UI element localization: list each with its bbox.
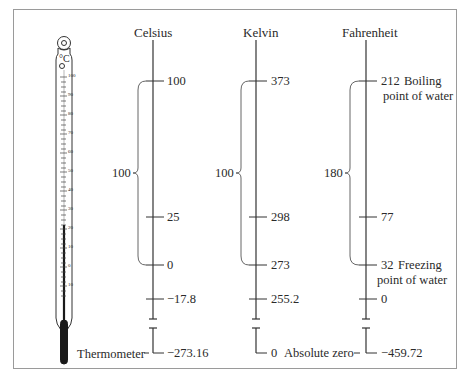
boiling-label-line2: point of water xyxy=(383,89,453,103)
thermometer-mark: 10 xyxy=(68,244,73,250)
thermometer-mark: 40 xyxy=(68,187,73,193)
celsius-body-value: 25 xyxy=(167,210,180,224)
fahrenheit-f-zero-value: 0 xyxy=(381,292,387,306)
thermometer-scale-ticks xyxy=(60,77,67,296)
kelvin-header: Kelvin xyxy=(243,26,278,40)
fahrenheit-absolute-zero-value: −459.72 xyxy=(381,346,422,360)
kelvin-boiling-value: 373 xyxy=(271,74,290,88)
thermometer-mark: 10 xyxy=(68,282,73,288)
absolute-zero-label: Absolute zero xyxy=(284,346,354,360)
fahrenheit-interval-label: 180 xyxy=(324,166,343,180)
celsius-freezing-value: 0 xyxy=(167,258,173,272)
thermometer-mark: 0 xyxy=(68,263,71,269)
fahrenheit-header: Fahrenheit xyxy=(342,26,398,40)
thermometer-mark: 100 xyxy=(68,73,76,79)
fahrenheit-boiling-value: 212 xyxy=(381,74,400,88)
celsius-boiling-value: 100 xyxy=(167,74,186,88)
thermometer-caption: Thermometer xyxy=(77,347,145,361)
fahrenheit-body-value: 77 xyxy=(381,210,394,224)
thermometer-mark: 80 xyxy=(68,111,73,117)
kelvin-freezing-value: 273 xyxy=(271,258,290,272)
kelvin-absolute-zero-value: 0 xyxy=(271,346,277,360)
thermometer-mark: 90 xyxy=(68,92,73,98)
freezing-label-line2: point of water xyxy=(377,273,447,287)
celsius-header: Celsius xyxy=(134,26,172,40)
thermometer-icon xyxy=(56,37,72,365)
celsius-absolute-zero-value: −273.16 xyxy=(167,346,208,360)
kelvin-f-zero-value: 255.2 xyxy=(271,292,299,306)
thermometer-mark: 50 xyxy=(68,168,73,174)
kelvin-interval-label: 100 xyxy=(215,166,234,180)
kelvin-body-value: 298 xyxy=(271,210,290,224)
thermometer-mark: 30 xyxy=(68,206,73,212)
diagram-graphics xyxy=(0,0,471,389)
freezing-label-line1: Freezing xyxy=(398,258,442,272)
fahrenheit-freezing-value: 32 xyxy=(381,258,394,272)
boiling-label-line1: Boiling xyxy=(404,74,442,88)
thermometer-mark: 60 xyxy=(68,149,73,155)
thermometer-mark: 20 xyxy=(68,225,73,231)
thermometer-unit-label: °C xyxy=(59,52,70,66)
celsius-interval-label: 100 xyxy=(112,166,131,180)
celsius-f-zero-value: −17.8 xyxy=(167,292,196,306)
thermometer-mark: 70 xyxy=(68,130,73,136)
